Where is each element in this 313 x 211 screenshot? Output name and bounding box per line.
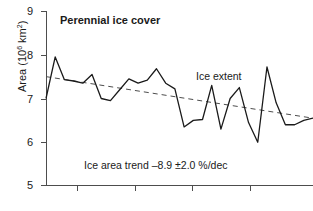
ice-extent-series-line	[46, 57, 313, 142]
y-axis-label-unit: km	[16, 28, 28, 46]
y-tick-label: 8	[27, 49, 33, 61]
annotation-ice-area-trend: Ice area trend –8.9 ±2.0 %/dec	[84, 159, 228, 171]
chart-title: Perennial ice cover	[60, 14, 160, 26]
y-axis-label-paren: )	[16, 21, 28, 25]
y-axis-label-unit-exponent: 2	[16, 24, 23, 28]
plot-area: 9 8 7 6 5 Perennial ice cover Ice extent…	[46, 11, 313, 186]
y-tick-label: 7	[27, 93, 33, 105]
y-tick-label: 5	[27, 179, 33, 191]
chart-figure: Area (106 km2) 9 8 7 6 5 Perennial ice c	[0, 0, 313, 211]
linear-trend-line	[46, 77, 313, 119]
y-axis-label-exponent: 6	[16, 46, 23, 50]
y-tick-label: 6	[27, 136, 33, 148]
y-tick-label: 9	[27, 5, 33, 17]
y-axis-label: Area (106 km2)	[16, 0, 29, 126]
annotation-ice-extent: Ice extent	[196, 70, 242, 82]
